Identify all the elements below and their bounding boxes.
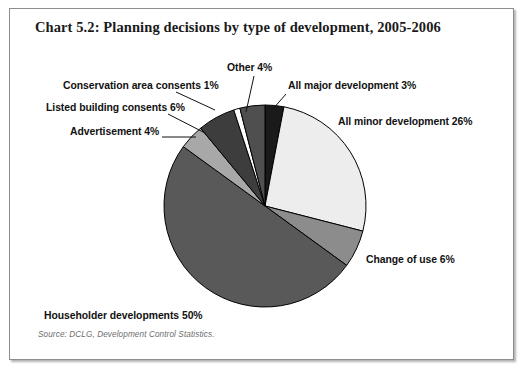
pie-label-all-minor-development: All minor development 26% bbox=[338, 116, 472, 127]
chart-page: Chart 5.2: Planning decisions by type of… bbox=[0, 0, 529, 373]
pie-label-listed-building-consents: Listed building consents 6% bbox=[46, 102, 185, 113]
pie-label-change-of-use: Change of use 6% bbox=[366, 254, 455, 265]
pie-label-householder-developments: Householder developments 50% bbox=[44, 310, 203, 321]
chart-source-note: Source: DCLG, Development Control Statis… bbox=[38, 330, 215, 339]
pie-label-advertisement: Advertisement 4% bbox=[70, 126, 159, 137]
leader-line-listed bbox=[168, 114, 205, 133]
pie-label-conservation-area-consents: Conservation area consents 1% bbox=[63, 80, 219, 91]
pie-slice-group bbox=[164, 105, 366, 307]
pie-label-all-major-development: All major development 3% bbox=[288, 80, 416, 91]
pie-label-other: Other 4% bbox=[227, 62, 272, 73]
